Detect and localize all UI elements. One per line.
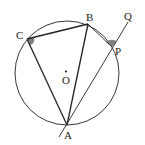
center-point-o (65, 70, 67, 72)
label-c: C (16, 29, 23, 41)
geometry-diagram: C B Q P A O (0, 0, 145, 145)
label-q: Q (124, 10, 132, 22)
segment-ba (67, 24, 88, 125)
circle-o (15, 21, 119, 125)
label-a: A (64, 129, 72, 141)
label-o: O (62, 74, 70, 86)
label-p: P (115, 45, 121, 57)
segment-bp (88, 24, 112, 47)
label-b: B (86, 11, 93, 23)
